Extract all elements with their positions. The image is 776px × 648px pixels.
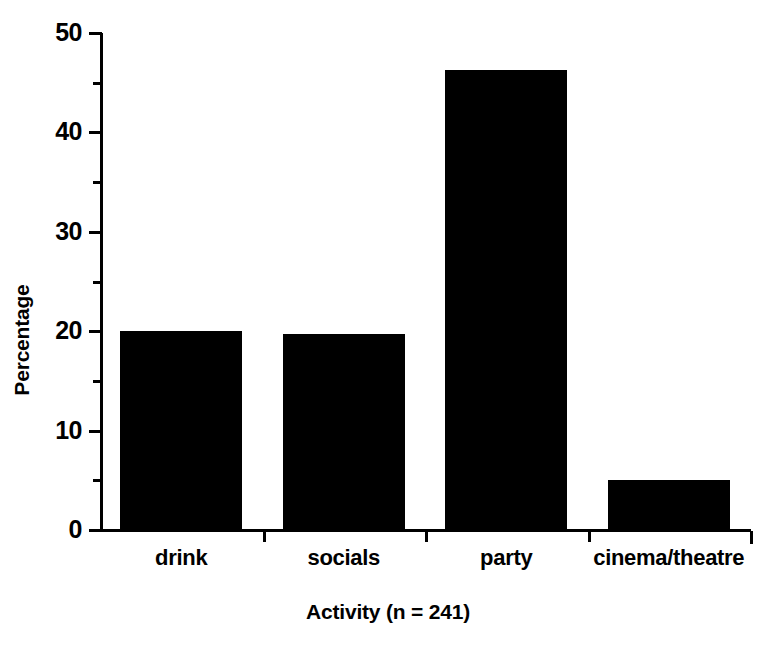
x-axis-end-tick [750,531,753,544]
y-axis-tick-label: 10 [38,418,82,443]
x-axis-category-label: drink [100,545,263,571]
bar [608,480,730,530]
bar-chart: 01020304050 drinksocialspartycinema/thea… [0,0,776,648]
x-axis-tick [263,531,266,542]
y-axis-tick-label: 50 [38,20,82,45]
bar [283,334,405,530]
bar [445,70,567,530]
y-axis-title: Percentage [10,250,34,430]
bars-group [100,33,750,530]
x-axis-tick [588,531,591,542]
x-axis-tick [425,531,428,542]
y-axis-tick-label: 0 [38,517,82,542]
x-axis-title: Activity (n = 241) [0,600,776,624]
x-axis-category-label: cinema/theatre [588,545,751,571]
y-axis-tick-label: 40 [38,119,82,144]
bar [120,331,242,530]
x-axis-category-label: party [425,545,588,571]
y-axis-tick-label: 20 [38,318,82,343]
x-axis-category-label: socials [263,545,426,571]
y-axis-tick-label: 30 [38,219,82,244]
